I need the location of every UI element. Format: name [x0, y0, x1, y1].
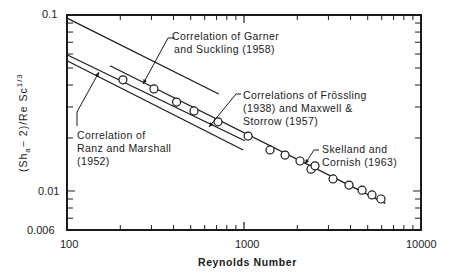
x-tick-1000: 1000	[235, 238, 259, 250]
annotation-garner-line1: Correlation of Garner	[172, 30, 279, 43]
y-tick-0.01: 0.01	[38, 185, 59, 197]
y-axis-label: (Sha− 2)/Re Sc1/3	[15, 73, 32, 172]
annotation-frossling-line1: Correlations of Frössling	[243, 89, 367, 102]
y-tick-0.006: 0.006	[27, 224, 55, 236]
annotation-skelland-line2: Cornish (1963)	[322, 156, 397, 169]
annotation-frossling-line3: Storrow (1957)	[243, 115, 367, 128]
x-axis-label: Reynolds Number	[198, 256, 297, 268]
data-point	[173, 98, 181, 106]
annotation-frossling: Correlations of Frössling (1938) and Max…	[243, 89, 367, 128]
data-point	[345, 181, 353, 189]
data-point	[329, 175, 337, 183]
data-point	[119, 76, 127, 84]
data-point	[244, 132, 252, 140]
y-axis-label-sup: 1/3	[15, 73, 24, 87]
annotation-ranz-line2: Ranz and Marshall	[77, 142, 171, 155]
ranz-leader	[77, 72, 99, 126]
skelland-leader-arrowhead-icon	[305, 159, 309, 164]
y-tick-0.1: 0.1	[42, 8, 57, 20]
correlation-line-2	[67, 55, 245, 141]
x-tick-10000: 10000	[406, 238, 437, 250]
annotation-ranz-line1: Correlation of	[77, 129, 171, 142]
annotation-skelland: Skelland and Cornish (1963)	[322, 143, 397, 169]
y-axis-label-main: (Sh	[17, 153, 29, 172]
annotation-ranz-line3: (1952)	[77, 155, 171, 168]
data-point	[281, 151, 289, 159]
data-point	[150, 85, 158, 93]
data-point	[266, 146, 274, 154]
y-axis-label-sub: a	[23, 147, 32, 152]
garner-leader	[143, 38, 175, 84]
annotation-skelland-line1: Skelland and	[322, 143, 397, 156]
data-point	[296, 157, 304, 165]
data-point	[377, 195, 385, 203]
annotation-frossling-line2: (1938) and Maxwell &	[243, 102, 367, 115]
y-axis-label-rest: − 2)/Re Sc	[17, 87, 29, 147]
annotation-ranz: Correlation of Ranz and Marshall (1952)	[77, 129, 171, 168]
annotation-garner: Correlation of Garner and Suckling (1958…	[172, 30, 279, 56]
data-point	[368, 191, 376, 199]
data-point	[311, 162, 319, 170]
data-point	[358, 186, 366, 194]
annotation-garner-line2: and Suckling (1958)	[172, 43, 279, 56]
x-tick-100: 100	[60, 238, 78, 250]
data-point	[190, 107, 198, 115]
